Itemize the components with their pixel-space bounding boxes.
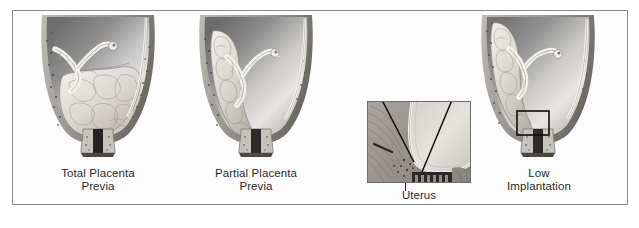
panel-caption-partial-previa: Partial Placenta Previa (183, 167, 329, 192)
uterus-total-previa-illustration (25, 13, 171, 161)
panel-total-placenta-previa: Total Placenta Previa (25, 13, 171, 203)
uterus-partial-previa-illustration (183, 13, 329, 161)
plate-frame: Total Placenta Previa (12, 10, 628, 205)
panel-caption-low-implantation: Low Implantation (463, 167, 615, 192)
panel-caption-total-previa: Total Placenta Previa (25, 167, 171, 192)
panel-low-implantation: Low Implantation (463, 13, 615, 203)
uterus-detail-inset (367, 101, 471, 183)
figure-root: Total Placenta Previa (0, 0, 639, 228)
uterus-low-implantation-illustration (463, 13, 615, 161)
inset-caption-uterus: Uterus (367, 189, 471, 202)
panel-partial-placenta-previa: Partial Placenta Previa (183, 13, 329, 203)
